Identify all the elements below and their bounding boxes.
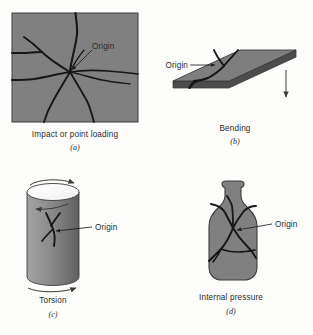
panel-a-origin-label: Origin: [92, 42, 115, 51]
panel-b-caption: Bending: [219, 124, 250, 133]
panel-b-letter: (b): [230, 137, 240, 146]
fracture-origin-figure: Origin Impact or point loading (a) Origi…: [0, 0, 313, 335]
panel-b-origin-label: Origin: [166, 61, 189, 70]
panel-c-bottom-torsion-arrow: [28, 288, 76, 292]
panel-a-impact-loading: Origin Impact or point loading (a): [12, 13, 138, 152]
panel-d-caption: Internal pressure: [199, 293, 263, 302]
panel-d-origin-label: Origin: [275, 220, 298, 229]
panel-d-internal-pressure: Origin Internal pressure (d): [199, 181, 298, 316]
panel-a-letter: (a): [70, 143, 80, 152]
panel-c-torsion: Origin Torsion (c): [27, 180, 118, 319]
panel-a-caption: Impact or point loading: [32, 130, 119, 139]
panel-c-origin-label: Origin: [95, 223, 118, 232]
panel-d-letter: (d): [226, 307, 236, 316]
panel-c-cylinder-body: [27, 192, 79, 286]
panel-b-bending: Origin Bending (b): [166, 50, 296, 146]
panel-c-letter: (c): [48, 310, 57, 319]
figure-canvas: Origin Impact or point loading (a) Origi…: [0, 0, 313, 335]
panel-c-caption: Torsion: [39, 296, 67, 305]
crack-ray-upper-left-branch: [12, 52, 42, 53]
panel-c-cylinder-top: [27, 184, 79, 201]
